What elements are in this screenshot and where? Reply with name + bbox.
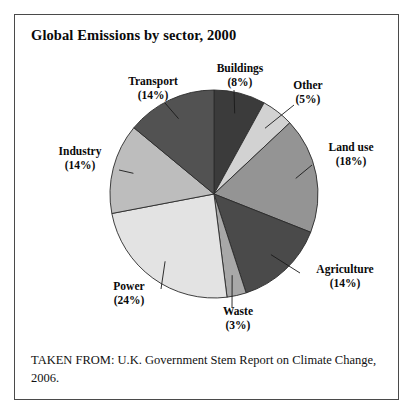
source-note: TAKEN FROM: U.K. Government Stem Report …: [31, 352, 383, 388]
pie-label-agriculture-name: Agriculture: [316, 263, 373, 275]
pie-label-transport-name: Transport: [128, 75, 178, 87]
pie-label-other-pct: (5%): [277, 93, 339, 107]
pie-label-waste-pct: (3%): [205, 319, 271, 333]
pie-label-industry-pct: (14%): [41, 159, 119, 173]
pie-label-other: Other (5%): [277, 79, 339, 106]
pie-label-land-use-name: Land use: [328, 141, 373, 153]
figure-page: Global Emissions by sector, 2000 Transpo…: [0, 0, 415, 417]
figure-frame: Global Emissions by sector, 2000 Transpo…: [14, 14, 399, 400]
pie-label-power-pct: (24%): [93, 294, 165, 308]
pie-label-other-name: Other: [293, 79, 322, 91]
pie-label-buildings-name: Buildings: [217, 62, 264, 74]
pie-label-agriculture-pct: (14%): [299, 277, 391, 291]
pie-label-land-use: Land use (18%): [311, 141, 391, 168]
pie-chart: Transport (14%) Buildings (8%) Other (5%…: [15, 15, 398, 345]
pie-label-transport-pct: (14%): [110, 89, 196, 103]
pie-label-buildings: Buildings (8%): [200, 62, 280, 89]
pie-label-power-name: Power: [113, 280, 144, 292]
pie-label-waste: Waste (3%): [205, 305, 271, 332]
pie-slices: [110, 90, 318, 298]
pie-label-buildings-pct: (8%): [200, 76, 280, 90]
pie-label-land-use-pct: (18%): [311, 155, 391, 169]
pie-label-agriculture: Agriculture (14%): [299, 263, 391, 290]
pie-label-power: Power (24%): [93, 280, 165, 307]
pie-label-industry-name: Industry: [59, 145, 102, 157]
pie-label-transport: Transport (14%): [110, 75, 196, 102]
pie-label-waste-name: Waste: [223, 305, 253, 317]
pie-label-industry: Industry (14%): [41, 145, 119, 172]
